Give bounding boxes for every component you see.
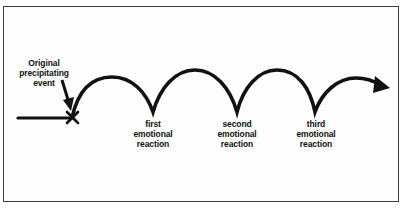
reaction-label-third: third emotional reaction	[296, 119, 335, 149]
reaction-label-line: emotional	[217, 129, 256, 139]
event-label-line: event	[19, 78, 69, 88]
reaction-label-second: second emotional reaction	[217, 119, 256, 149]
reaction-arcs	[72, 70, 380, 118]
reaction-label-line: third	[296, 119, 335, 129]
reaction-label-line: reaction	[217, 139, 256, 149]
reaction-label-line: first	[133, 119, 172, 129]
reaction-label-line: emotional	[296, 129, 335, 139]
reaction-label-line: reaction	[133, 139, 172, 149]
emotional-reaction-chain	[0, 0, 404, 210]
reaction-label-line: second	[217, 119, 256, 129]
event-label-line: precipitating	[19, 68, 69, 78]
reaction-label-first: first emotional reaction	[133, 119, 172, 149]
event-label: Original precipitating event	[19, 58, 69, 88]
arrowhead-icon	[373, 76, 390, 93]
event-label-line: Original	[19, 58, 69, 68]
reaction-label-line: emotional	[133, 129, 172, 139]
reaction-label-line: reaction	[296, 139, 335, 149]
